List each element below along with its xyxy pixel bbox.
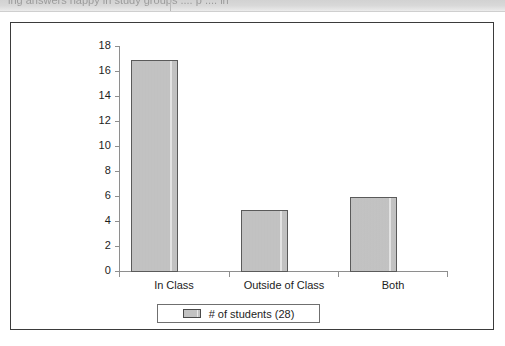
x-axis-label-outside-of-class: Outside of Class [229, 279, 339, 291]
page-header-underline [0, 11, 505, 12]
bar-chart: 18 16 14 12 10 8 [10, 22, 494, 330]
x-axis-label-both: Both [338, 279, 448, 291]
x-axis-label-in-class: In Class [119, 279, 229, 291]
bar-highlight-streak [170, 61, 172, 272]
bar-in-class[interactable] [131, 60, 178, 273]
legend-label-students: # of students (28) [209, 308, 295, 320]
bar-highlight-streak [280, 211, 282, 272]
legend-swatch-icon [183, 309, 201, 318]
page-header-clipped-text: ing answers happy in study groups .... p… [0, 0, 505, 11]
bar-both[interactable] [350, 197, 397, 272]
bar-outside-of-class[interactable] [241, 210, 288, 273]
plot-area: 18 16 14 12 10 8 [11, 23, 495, 331]
bar-highlight-streak [389, 198, 391, 271]
chart-legend: # of students (28) [157, 304, 320, 323]
